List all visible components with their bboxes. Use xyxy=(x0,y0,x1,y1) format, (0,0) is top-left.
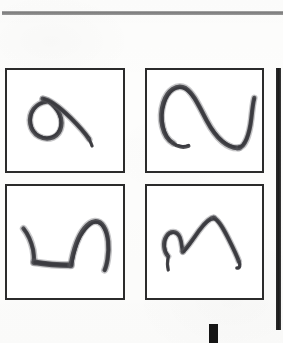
stroke-drawing-nine-loop xyxy=(7,70,123,171)
black-block-mark xyxy=(209,324,218,343)
page-edge-bar xyxy=(276,68,281,330)
stroke-drawing-mountain-peak xyxy=(147,186,262,298)
scanned-page xyxy=(0,0,283,343)
figure-panel-bottom-right xyxy=(145,184,264,300)
figure-panel-bottom-left xyxy=(5,184,125,300)
horizontal-rule xyxy=(2,11,283,15)
figure-panel-top-right xyxy=(145,68,264,173)
stroke-drawing-base-and-hump xyxy=(7,186,123,298)
figure-panel-top-left xyxy=(5,68,125,173)
stroke-drawing-sweeping-arch xyxy=(147,70,262,171)
